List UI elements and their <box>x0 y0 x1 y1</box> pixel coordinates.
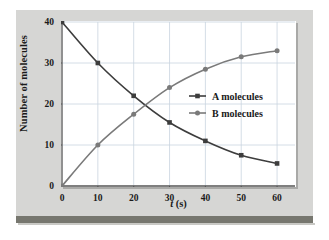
data-point <box>275 48 280 53</box>
data-point <box>275 161 280 166</box>
data-point <box>239 153 244 158</box>
legend-marker-a <box>195 94 200 99</box>
data-point <box>96 61 101 66</box>
legend-label-b: B molecules <box>212 108 263 119</box>
figure-container: A moleculesB molecules 01020304050600102… <box>0 0 329 240</box>
data-point <box>167 120 172 125</box>
line-chart: A moleculesB molecules <box>61 21 296 187</box>
data-point <box>167 85 172 90</box>
x-axis-label-unit: (s) <box>173 198 187 209</box>
plot-area: A moleculesB molecules <box>61 21 296 187</box>
data-point <box>95 143 100 148</box>
data-point <box>61 21 64 24</box>
data-point <box>131 112 136 117</box>
data-point <box>203 67 208 72</box>
x-axis-label: t (s) <box>61 198 296 209</box>
bottom-rule <box>16 216 313 223</box>
data-point <box>131 94 136 99</box>
axis-ticks <box>61 22 277 187</box>
bottom-rule-shadow <box>18 223 315 225</box>
gridlines <box>62 22 295 186</box>
y-axis-label: Number of molecules <box>18 14 29 154</box>
data-point <box>203 139 208 144</box>
legend-marker-b <box>195 111 200 116</box>
chart-legend: A moleculesB molecules <box>189 91 263 119</box>
data-point <box>239 54 244 59</box>
legend-label-a: A molecules <box>212 91 263 102</box>
